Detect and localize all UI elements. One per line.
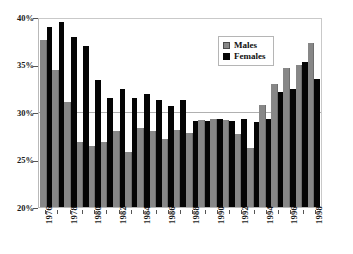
x-tick: 1984: [137, 210, 149, 254]
x-tick-mark: [82, 210, 83, 214]
x-tick: 1994: [260, 210, 272, 254]
x-tick-mark: [229, 210, 230, 214]
x-tick: 1978: [64, 210, 76, 254]
bar-males: [271, 84, 278, 207]
x-tick-mark: [106, 210, 107, 214]
bar-group: [125, 19, 137, 207]
legend-label-males: Males: [234, 41, 257, 50]
legend-label-females: Females: [234, 52, 266, 61]
x-tick-mark: [278, 210, 279, 214]
y-tick-label: 20%: [0, 204, 34, 213]
bar-group: [198, 19, 210, 207]
bar-males: [52, 70, 59, 207]
bar-males: [137, 128, 144, 207]
bar-males: [125, 152, 132, 207]
x-tick: [223, 210, 235, 254]
bar-group: [89, 19, 101, 207]
bar-males: [235, 134, 242, 207]
y-tick-label: 25%: [0, 156, 34, 165]
bar-males: [113, 131, 120, 207]
bar-males: [150, 131, 157, 207]
x-tick: [100, 210, 112, 254]
bar-group: [150, 19, 162, 207]
bar-group: [174, 19, 186, 207]
bar-males: [101, 142, 108, 207]
bar-males: [174, 130, 181, 207]
bar-groups: [39, 19, 321, 207]
x-tick: [125, 210, 137, 254]
x-tick-label: 1998: [315, 206, 324, 224]
bar-group: [40, 19, 52, 207]
bar-males: [296, 65, 303, 207]
x-tick: [149, 210, 161, 254]
y-tick-label: 40%: [0, 14, 34, 23]
x-axis: 1976197819801982198419861988199019921994…: [38, 210, 322, 254]
x-tick: [174, 210, 186, 254]
x-tick: [51, 210, 63, 254]
x-tick-mark: [205, 210, 206, 214]
bar-males: [308, 43, 315, 208]
bar-group: [308, 19, 320, 207]
bar-group: [137, 19, 149, 207]
y-tick-label: 30%: [0, 109, 34, 118]
x-tick-mark: [156, 210, 157, 214]
x-tick: 1988: [186, 210, 198, 254]
x-tick: [297, 210, 309, 254]
bar-group: [162, 19, 174, 207]
bar-group: [64, 19, 76, 207]
bar-group: [77, 19, 89, 207]
bar-males: [89, 146, 96, 207]
bar-group: [186, 19, 198, 207]
x-tick-mark: [254, 210, 255, 214]
bar-males: [223, 120, 230, 207]
y-tick-label: 35%: [0, 61, 34, 70]
x-tick: 1998: [309, 210, 321, 254]
x-tick: 1980: [88, 210, 100, 254]
x-tick: 1992: [235, 210, 247, 254]
bar-males: [283, 68, 290, 207]
x-tick: 1976: [39, 210, 51, 254]
bar-males: [40, 40, 47, 207]
x-tick: [248, 210, 260, 254]
x-tick: 1986: [162, 210, 174, 254]
bar-group: [52, 19, 64, 207]
x-tick-mark: [180, 210, 181, 214]
bar-males: [162, 139, 169, 207]
males-swatch: [223, 42, 230, 49]
bar-group: [113, 19, 125, 207]
x-tick: [198, 210, 210, 254]
legend-item-males: Males: [223, 40, 266, 51]
bar-males: [259, 105, 266, 207]
bar-females: [314, 79, 320, 207]
bar-males: [186, 133, 193, 207]
females-swatch: [223, 53, 230, 60]
legend-item-females: Females: [223, 51, 266, 62]
y-tick-mark: [33, 208, 38, 209]
x-tick: 1996: [284, 210, 296, 254]
chart-container: 20%25%30%35%40% 197619781980198219841986…: [0, 0, 353, 254]
chart-legend: Males Females: [218, 36, 274, 66]
bar-males: [198, 120, 205, 207]
x-tick-mark: [57, 210, 58, 214]
bar-males: [77, 142, 84, 207]
bar-males: [247, 148, 254, 207]
bar-group: [296, 19, 308, 207]
bar-group: [101, 19, 113, 207]
x-tick-mark: [303, 210, 304, 214]
x-tick-mark: [131, 210, 132, 214]
x-tick: 1990: [211, 210, 223, 254]
x-tick: [272, 210, 284, 254]
bar-males: [210, 119, 217, 207]
bar-males: [64, 102, 71, 207]
plot-area: [38, 18, 322, 208]
x-tick: [76, 210, 88, 254]
x-tick: 1982: [113, 210, 125, 254]
bar-group: [283, 19, 295, 207]
